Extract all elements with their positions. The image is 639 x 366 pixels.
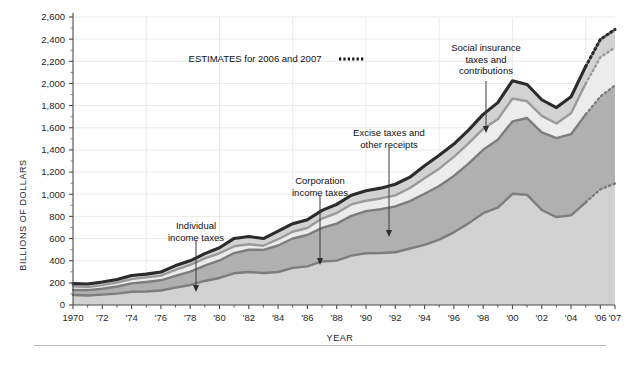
stacked-area-series	[73, 29, 615, 305]
x-tick-label: 1970	[62, 312, 83, 323]
svg-text:Individualincome taxes: Individualincome taxes	[168, 220, 224, 243]
x-tick-label: '78	[184, 312, 196, 323]
y-tick-label: 0	[60, 299, 65, 310]
x-tick-label: '74	[125, 312, 137, 323]
y-tick-label: 400	[49, 255, 65, 266]
y-tick-label: 200	[49, 277, 65, 288]
x-tick-label: '86	[301, 312, 313, 323]
svg-text:Corporationincome taxes: Corporationincome taxes	[292, 175, 348, 198]
svg-text:Social insurancetaxes andcontr: Social insurancetaxes andcontributions	[451, 42, 521, 76]
x-tick-label: '92	[389, 312, 401, 323]
footer-divider	[34, 345, 606, 346]
x-tick-label: '76	[155, 312, 167, 323]
chart-canvas: 02004006008001,0001,2001,4001,6001,8002,…	[0, 0, 639, 366]
x-tick-label: '02	[536, 312, 548, 323]
y-tick-label: 2,400	[41, 34, 65, 45]
x-tick-label: '90	[360, 312, 372, 323]
x-tick-label: '72	[96, 312, 108, 323]
x-tick-label: '00	[506, 312, 518, 323]
y-tick-label: 2,000	[41, 78, 65, 89]
y-axis-title: BILLIONS OF DOLLARS	[18, 159, 28, 270]
x-tick-label: '84	[272, 312, 284, 323]
annotation-estimates-note: ESTIMATES for 2006 and 2007	[189, 53, 365, 64]
y-tick-label: 1,600	[41, 122, 65, 133]
x-tick-label: '88	[330, 312, 342, 323]
svg-text:Excise taxes andother receipts: Excise taxes andother receipts	[353, 127, 425, 150]
x-tick-label: '06	[594, 312, 606, 323]
x-axis-title: YEAR	[327, 333, 354, 343]
y-tick-label: 600	[49, 233, 65, 244]
x-axis-tick-labels: 1970'72'74'76'78'80'82'84'86'88'90'92'94…	[62, 312, 621, 323]
x-tick-label: '96	[448, 312, 460, 323]
y-tick-label: 2,200	[41, 56, 65, 67]
y-tick-label: 1,000	[41, 189, 65, 200]
x-axis-ticks	[73, 305, 615, 309]
x-tick-label: '07	[609, 312, 621, 323]
y-axis-tick-labels: 02004006008001,0001,2001,4001,6001,8002,…	[41, 11, 65, 310]
y-tick-label: 1,400	[41, 144, 65, 155]
y-tick-label: 2,600	[41, 11, 65, 22]
y-tick-label: 1,800	[41, 100, 65, 111]
y-tick-label: 800	[49, 211, 65, 222]
y-axis-ticks	[69, 17, 73, 305]
svg-text:ESTIMATES for 2006 and 2007: ESTIMATES for 2006 and 2007	[189, 53, 322, 64]
y-tick-label: 1,200	[41, 166, 65, 177]
x-tick-label: '98	[477, 312, 489, 323]
x-tick-label: '04	[565, 312, 577, 323]
x-tick-label: '82	[243, 312, 255, 323]
x-tick-label: '80	[213, 312, 225, 323]
x-tick-label: '94	[418, 312, 430, 323]
receipts-area-chart: 02004006008001,0001,2001,4001,6001,8002,…	[0, 0, 639, 366]
